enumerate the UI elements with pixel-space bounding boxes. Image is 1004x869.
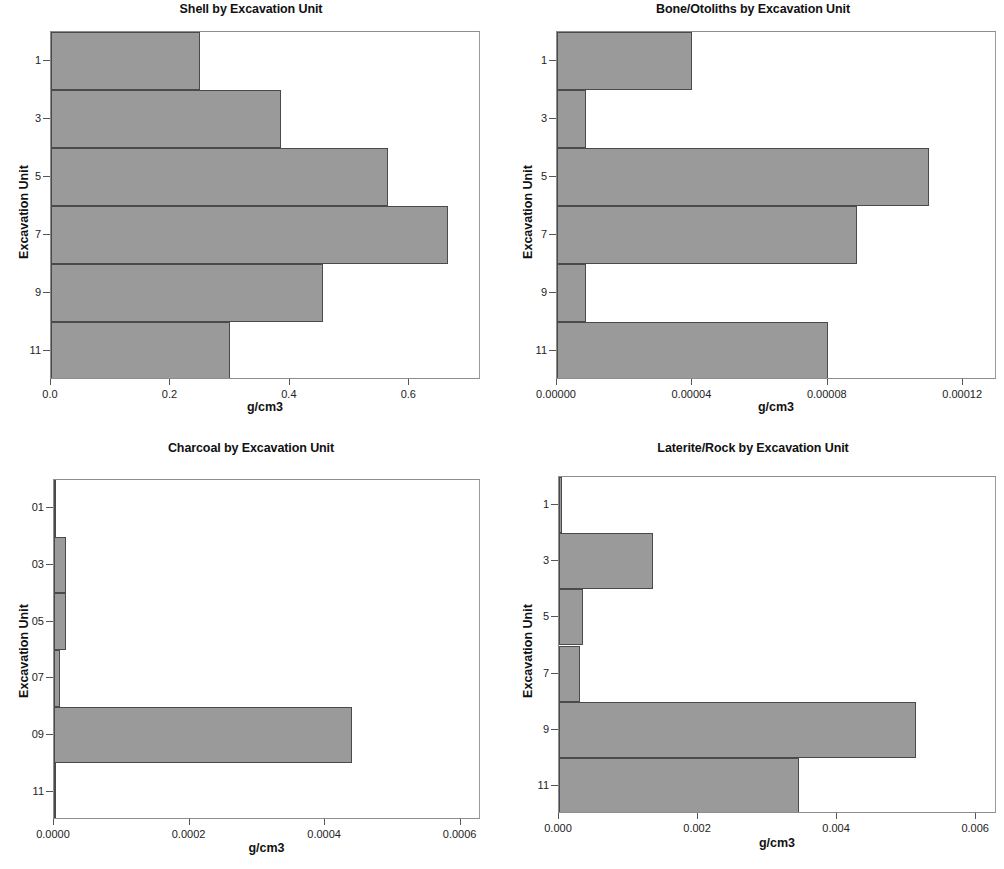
figure-grid: Shell by Excavation Unit Excavation Unit… — [0, 0, 1004, 869]
y-axis-tick-label: 5 — [35, 170, 41, 182]
y-axis-tick — [46, 677, 53, 678]
x-axis-tick — [408, 379, 409, 385]
y-axis-tick — [549, 292, 556, 293]
x-axis-tick-label: 0.00000 — [536, 388, 576, 400]
bar — [54, 650, 60, 707]
y-axis-tick-label: 7 — [541, 228, 547, 240]
x-axis-tick — [289, 379, 290, 385]
chart-panel-charcoal: Charcoal by Excavation Unit Excavation U… — [0, 439, 502, 869]
x-axis-tick-label: 0.0000 — [36, 828, 70, 840]
x-axis-tick — [962, 379, 963, 385]
x-axis-tick — [324, 819, 325, 825]
x-axis-tick-label: 0.4 — [281, 388, 296, 400]
x-axis-tick — [169, 379, 170, 385]
bar — [559, 533, 653, 589]
x-axis-tick-label: 0.0 — [42, 388, 57, 400]
y-axis-tick — [43, 176, 50, 177]
y-axis-tick — [46, 791, 53, 792]
bar — [51, 32, 200, 90]
chart-title: Charcoal by Excavation Unit — [0, 441, 502, 455]
bar — [559, 702, 916, 758]
bar — [557, 90, 586, 148]
y-axis-tick-label: 01 — [32, 501, 44, 513]
y-axis-tick-label: 07 — [32, 671, 44, 683]
x-axis-tick-label: 0.002 — [683, 822, 711, 834]
y-axis-tick-label: 3 — [35, 112, 41, 124]
bar — [51, 148, 388, 206]
y-axis-tick-label: 05 — [32, 615, 44, 627]
y-axis-tick — [549, 234, 556, 235]
y-axis-tick — [46, 507, 53, 508]
y-axis-tick-label: 11 — [33, 785, 44, 797]
y-axis-tick — [551, 673, 558, 674]
y-axis-tick-label: 9 — [541, 286, 547, 298]
bar — [54, 707, 352, 764]
x-axis-tick — [53, 819, 54, 825]
bar — [559, 758, 799, 813]
x-axis-tick — [460, 819, 461, 825]
x-axis-label: g/cm3 — [50, 400, 480, 414]
y-axis-tick-label: 03 — [32, 558, 44, 570]
y-axis-tick-label: 11 — [30, 344, 41, 356]
x-axis-tick — [827, 379, 828, 385]
bar — [54, 537, 66, 594]
y-axis-tick-label: 9 — [543, 723, 549, 735]
x-axis-tick — [558, 813, 559, 819]
bar — [559, 646, 580, 702]
x-axis-label: g/cm3 — [558, 836, 996, 850]
y-axis-tick-label: 9 — [35, 286, 41, 298]
x-axis-tick — [975, 813, 976, 819]
x-axis-tick — [691, 379, 692, 385]
y-axis-tick — [46, 564, 53, 565]
bar — [51, 322, 230, 379]
bar — [559, 477, 562, 533]
y-axis-tick — [43, 292, 50, 293]
plot-area: 13579110.000000.000040.000080.00012 — [556, 31, 996, 379]
y-axis-tick — [549, 60, 556, 61]
chart-title: Laterite/Rock by Excavation Unit — [502, 441, 1004, 455]
x-axis-tick — [697, 813, 698, 819]
bar — [559, 589, 583, 645]
y-axis-tick — [551, 560, 558, 561]
y-axis-tick-label: 11 — [536, 344, 547, 356]
y-axis-tick — [551, 785, 558, 786]
y-axis-tick — [43, 350, 50, 351]
plot-frame — [558, 476, 996, 813]
y-axis-tick-label: 11 — [538, 779, 549, 791]
chart-panel-shell: Shell by Excavation Unit Excavation Unit… — [0, 0, 502, 430]
bar — [557, 264, 586, 322]
y-axis-tick-label: 3 — [541, 112, 547, 124]
x-axis-tick — [836, 813, 837, 819]
x-axis-tick-label: 0.000 — [544, 822, 572, 834]
y-axis-tick — [46, 734, 53, 735]
x-axis-tick — [556, 379, 557, 385]
plot-area: 0103050709110.00000.00020.00040.0006 — [53, 479, 480, 819]
bar — [557, 206, 857, 264]
chart-title: Bone/Otoliths by Excavation Unit — [502, 2, 1004, 16]
y-axis-tick-label: 3 — [543, 554, 549, 566]
y-axis-tick-label: 7 — [35, 228, 41, 240]
bar — [51, 264, 323, 322]
y-axis-tick-label: 1 — [541, 54, 547, 66]
plot-frame — [50, 31, 480, 379]
y-axis-tick — [551, 616, 558, 617]
x-axis-tick-label: 0.00012 — [942, 388, 982, 400]
plot-frame — [556, 31, 996, 379]
y-axis-tick-label: 5 — [543, 610, 549, 622]
y-axis-tick — [549, 118, 556, 119]
x-axis-tick-label: 0.0004 — [307, 828, 341, 840]
chart-title: Shell by Excavation Unit — [0, 2, 502, 16]
y-axis-tick-label: 7 — [543, 667, 549, 679]
x-axis-tick-label: 0.0002 — [172, 828, 206, 840]
y-axis-tick — [549, 176, 556, 177]
x-axis-tick-label: 0.006 — [961, 822, 989, 834]
plot-area: 13579110.0000.0020.0040.006 — [558, 476, 996, 813]
y-axis-tick-label: 1 — [543, 498, 549, 510]
x-axis-tick — [50, 379, 51, 385]
x-axis-label: g/cm3 — [53, 841, 480, 855]
y-axis-tick — [551, 504, 558, 505]
y-axis-tick-label: 5 — [541, 170, 547, 182]
x-axis-tick — [189, 819, 190, 825]
y-axis-tick — [549, 350, 556, 351]
chart-panel-bone-otoliths: Bone/Otoliths by Excavation Unit Excavat… — [502, 0, 1004, 430]
